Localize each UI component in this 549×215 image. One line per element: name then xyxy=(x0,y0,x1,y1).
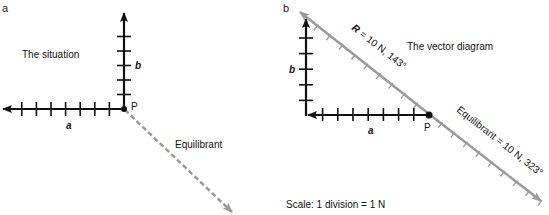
equilibrant-label-b: Equilibrant = 10 N, 323° xyxy=(455,104,545,178)
scale-label: Scale: 1 division = 1 N xyxy=(286,199,385,210)
panel-b-title: The vector diagram xyxy=(407,41,493,52)
vector-b-label: b xyxy=(135,60,141,71)
point-p-label-b: P xyxy=(424,122,431,133)
point-p-b xyxy=(426,112,433,119)
vector-b-label-b: b xyxy=(289,64,295,75)
point-p xyxy=(121,106,127,112)
vector-a-label: a xyxy=(66,120,72,131)
equilibrant-arrow xyxy=(125,110,232,212)
panel-a-label: a xyxy=(2,2,9,14)
resultant-value: = 10 N, 143° xyxy=(355,26,408,71)
vector-diagram-figure: a The situation Equilibrant a b P b The … xyxy=(0,0,549,215)
resultant-label: R = 10 N, 143° xyxy=(350,22,409,71)
panel-a: a The situation Equilibrant a b P xyxy=(2,2,232,212)
panel-b-label: b xyxy=(283,2,289,14)
vector-a-label-b: a xyxy=(368,125,374,136)
point-p-label: P xyxy=(131,101,138,112)
panel-a-title: The situation xyxy=(22,49,79,60)
equilibrant-label: Equilibrant xyxy=(175,139,222,150)
panel-b: b The vector diagram b a P R = 10 N, 143… xyxy=(283,2,545,210)
